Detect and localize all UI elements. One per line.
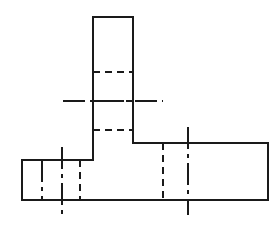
drawing-svg: [0, 0, 278, 230]
technical-drawing-canvas: [0, 0, 278, 230]
